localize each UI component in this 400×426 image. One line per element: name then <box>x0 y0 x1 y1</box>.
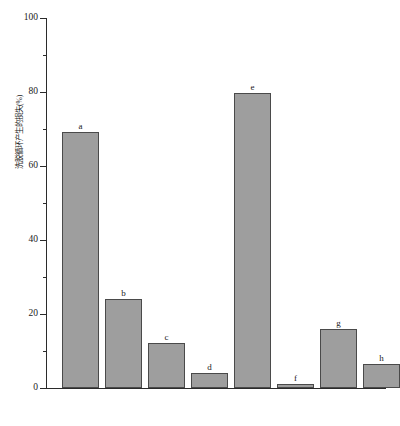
bar-g: g <box>320 329 357 388</box>
bar-label-f: f <box>294 374 297 383</box>
y-tick-label-20: 20 <box>29 309 39 319</box>
bar-label-e: e <box>251 83 255 92</box>
y-tick-label-40: 40 <box>29 235 39 245</box>
y-tick-label-0: 0 <box>33 383 38 393</box>
bar-d: d <box>191 373 228 388</box>
bar-b: b <box>105 299 142 388</box>
bar-label-c: c <box>165 333 169 342</box>
bar-f: f <box>277 384 314 388</box>
bar-c: c <box>148 343 185 388</box>
bar-h: h <box>363 364 400 388</box>
bar-label-h: h <box>379 354 384 363</box>
bar-label-d: d <box>207 363 212 372</box>
y-axis-title: 洗脱循环产生的损失(%) <box>16 32 24 232</box>
y-tick-label-60: 60 <box>29 161 39 171</box>
bar-label-a: a <box>79 122 83 131</box>
y-tick-label-80: 80 <box>29 87 39 97</box>
bars-layer: a b c d e f g h <box>46 18 386 389</box>
plot-area: 0 20 40 60 80 <box>46 18 386 389</box>
bar-a: a <box>62 132 99 388</box>
bar-e: e <box>234 93 271 388</box>
bar-label-g: g <box>336 319 341 328</box>
y-tick-label-100: 100 <box>24 13 38 23</box>
bar-label-b: b <box>121 289 126 298</box>
